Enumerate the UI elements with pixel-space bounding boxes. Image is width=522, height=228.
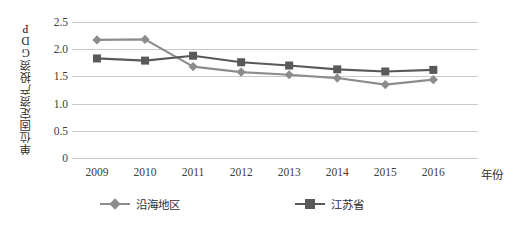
y-axis-tick-label: 1.5 [32, 70, 68, 82]
legend-label: 沿海地区 [136, 196, 180, 212]
series-lines [72, 22, 478, 158]
square-marker [93, 54, 101, 62]
square-marker [189, 52, 197, 60]
diamond-marker [92, 35, 101, 44]
legend-item[interactable]: 沿海地区 [100, 196, 180, 212]
y-axis-tick-label: 2.0 [32, 43, 68, 55]
x-axis-title: 年份 [481, 166, 503, 182]
x-axis-tick-label: 2012 [230, 166, 253, 178]
diamond-marker [188, 62, 197, 71]
y-axis-tick-label: 2.5 [32, 16, 68, 28]
diamond-marker [285, 70, 294, 79]
square-marker [141, 57, 149, 65]
x-axis-tick-label: 2016 [422, 166, 445, 178]
square-marker [285, 62, 293, 70]
diamond-marker [381, 80, 390, 89]
square-marker [333, 65, 341, 73]
y-axis-tick-label: 0.5 [32, 125, 68, 137]
x-axis-tick-label: 2013 [278, 166, 301, 178]
square-marker [305, 199, 315, 209]
diamond-marker [140, 35, 149, 44]
legend-label: 江苏省 [331, 196, 364, 212]
legend-key [295, 198, 325, 210]
y-axis-tick-labels: 00.51.01.52.02.5 [30, 0, 68, 228]
legend-key [100, 198, 130, 210]
x-axis-tick-label: 2010 [134, 166, 157, 178]
x-axis-tick-label: 2015 [374, 166, 397, 178]
diamond-marker [429, 75, 438, 84]
x-axis-tick-label: 2011 [182, 166, 205, 178]
diamond-marker [237, 67, 246, 76]
plot-area [72, 22, 478, 158]
x-axis-tick-label: 2009 [85, 166, 108, 178]
chart-container: 单位固定资产投资GDP 00.51.01.52.02.5 20092010201… [0, 0, 522, 228]
diamond-marker [109, 198, 120, 209]
square-marker [381, 68, 389, 76]
y-axis-tick-label: 0 [32, 152, 68, 164]
legend-item[interactable]: 江苏省 [295, 196, 364, 212]
y-axis-tick-label: 1.0 [32, 98, 68, 110]
chart-legend: 沿海地区江苏省 [0, 196, 522, 218]
diamond-marker [333, 73, 342, 82]
square-marker [237, 58, 245, 66]
square-marker [429, 66, 437, 74]
x-axis-tick-label: 2014 [326, 166, 349, 178]
gridline [72, 158, 478, 159]
